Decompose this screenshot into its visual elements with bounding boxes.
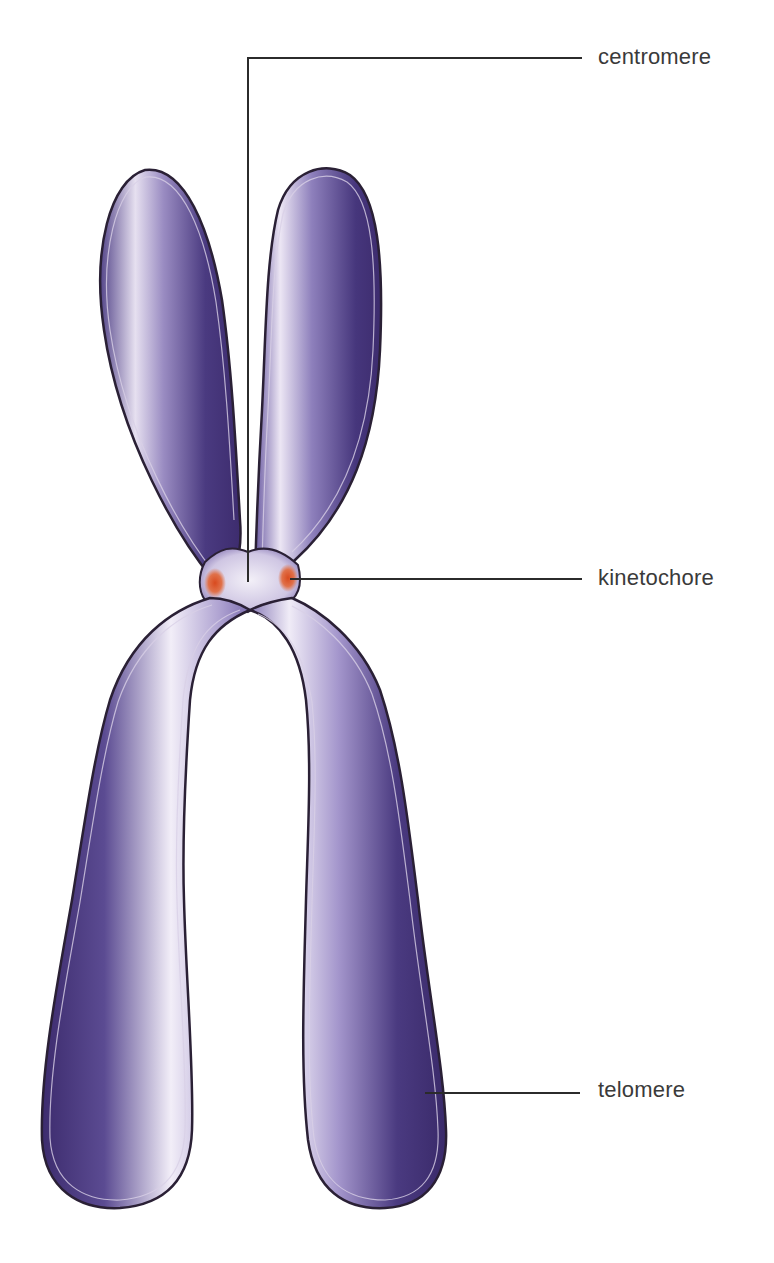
centromere-label: centromere xyxy=(598,44,711,70)
chromosome-diagram xyxy=(0,0,774,1263)
upper-left-chromatid-arm xyxy=(100,170,240,578)
left-kinetochore xyxy=(204,568,226,598)
telomere-label: telomere xyxy=(598,1077,685,1103)
lower-left-chromatid-arm xyxy=(42,598,250,1208)
lower-right-chromatid-arm xyxy=(250,598,446,1208)
kinetochore-label: kinetochore xyxy=(598,565,714,591)
upper-right-chromatid-arm xyxy=(255,168,381,575)
